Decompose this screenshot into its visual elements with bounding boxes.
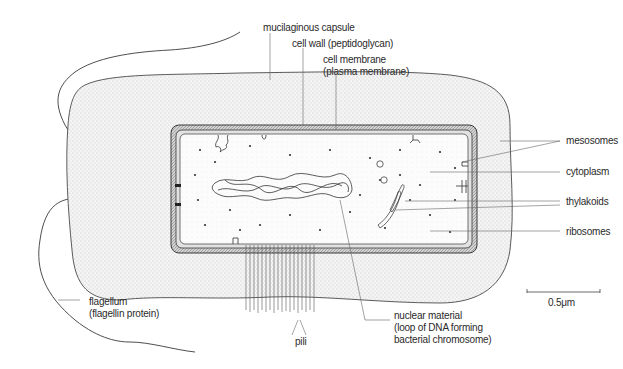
label-nuclear-material: nuclear material [394,310,462,321]
label-flagellum-sub: (flagellin protein) [89,308,159,319]
label-nuclear-material-sub1: (loop of DNA forming [394,322,483,333]
label-scale: 0.5μm [548,297,575,308]
label-cytoplasm: cytoplasm [566,166,609,177]
label-ribosomes: ribosomes [566,226,610,237]
label-mesosomes: mesosomes [566,135,618,146]
label-cell-membrane: cell membrane [323,54,386,65]
label-pili: pili [295,336,306,347]
label-thylakoids: thylakoids [566,196,608,207]
scale-bar [527,289,600,293]
label-flagellum: flagellum [89,296,127,307]
flagellum-basal-body [175,203,181,206]
label-capsule: mucilaginous capsule [263,22,355,33]
label-cell-membrane-sub: (plasma membrane) [323,66,409,77]
label-nuclear-material-sub2: bacterial chromosome) [394,334,492,345]
label-cell-wall: cell wall (peptidoglycan) [292,38,393,49]
flagellum-basal-body [175,184,181,187]
